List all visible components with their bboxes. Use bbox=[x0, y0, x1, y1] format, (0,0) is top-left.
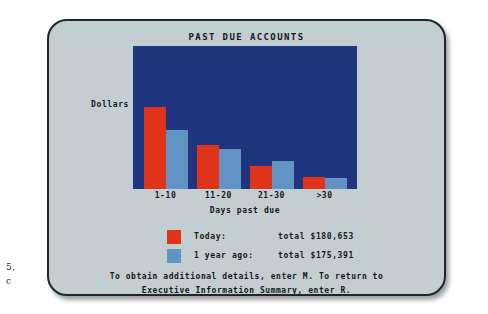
today-swatch-icon bbox=[167, 230, 181, 244]
x-tick-label: >30 bbox=[298, 191, 351, 200]
chart-legend: Today: total $180,653 1 year ago: total … bbox=[167, 227, 354, 265]
bar-year-ago-11-20 bbox=[219, 149, 241, 189]
bar-today-1-10 bbox=[144, 107, 166, 189]
bar-today-11-20 bbox=[197, 145, 219, 189]
footer-instructions: To obtain additional details, enter M. T… bbox=[49, 270, 444, 296]
footer-line-1: To obtain additional details, enter M. T… bbox=[49, 270, 444, 284]
footer-line-2: Executive Information Summary, enter R. bbox=[49, 284, 444, 296]
bar-group bbox=[139, 107, 192, 189]
margin-note-fragment-2: c bbox=[6, 276, 12, 286]
bar-year-ago-1-10 bbox=[166, 130, 188, 189]
bar-today-21-30 bbox=[250, 166, 272, 189]
x-axis-label: Days past due bbox=[133, 206, 357, 215]
legend-label: 1 year ago: bbox=[194, 251, 278, 260]
legend-total: total $180,653 bbox=[278, 232, 354, 241]
legend-total: total $175,391 bbox=[278, 251, 354, 260]
x-tick-label: 21-30 bbox=[245, 191, 298, 200]
legend-item: 1 year ago: total $175,391 bbox=[167, 246, 354, 265]
legend-label: Today: bbox=[194, 232, 278, 241]
bar-group bbox=[298, 177, 351, 189]
page-title: PAST DUE ACCOUNTS bbox=[49, 32, 444, 42]
y-axis-label: Dollars bbox=[63, 100, 129, 109]
legend-item: Today: total $180,653 bbox=[167, 227, 354, 246]
bar-today-over-30 bbox=[303, 177, 325, 189]
bar-year-ago-over-30 bbox=[325, 178, 347, 189]
year-ago-swatch-icon bbox=[167, 249, 181, 263]
x-axis-tick-labels: 1-10 11-20 21-30 >30 bbox=[133, 191, 357, 200]
x-tick-label: 1-10 bbox=[139, 191, 192, 200]
margin-note-fragment-1: 5, bbox=[6, 262, 16, 272]
bar-chart-plot-area bbox=[133, 46, 357, 189]
bar-groups bbox=[133, 46, 357, 189]
bar-group bbox=[192, 145, 245, 189]
bar-year-ago-21-30 bbox=[272, 161, 294, 189]
x-tick-label: 11-20 bbox=[192, 191, 245, 200]
bar-group bbox=[245, 161, 298, 189]
terminal-screen-card: PAST DUE ACCOUNTS Dollars bbox=[47, 19, 446, 296]
screenshot-root: 5, c PAST DUE ACCOUNTS Dollars bbox=[0, 0, 488, 314]
